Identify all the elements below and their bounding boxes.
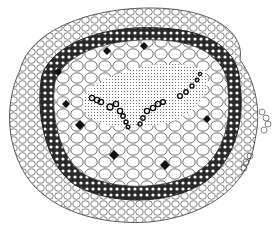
stem-cross-section-illustration: [0, 0, 277, 232]
illustration-svg: [0, 0, 277, 232]
